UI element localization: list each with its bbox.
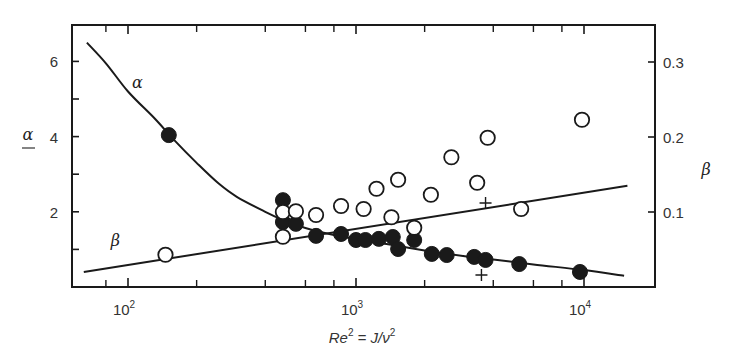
open-circle-marker xyxy=(158,248,172,262)
open-circle-marker xyxy=(514,202,528,216)
tick-labels: 1021031042460.10.20.3 xyxy=(50,53,684,318)
filled-circle-marker xyxy=(309,228,324,243)
y-right-tick-label: 0.1 xyxy=(663,204,684,221)
open-circle-marker xyxy=(391,173,405,187)
x-axis-label: Re2 = J/ν2 xyxy=(329,327,396,346)
open-circle-marker xyxy=(384,210,398,224)
open-circle-marker xyxy=(424,188,438,202)
y-axis-label-left: α xyxy=(23,125,34,144)
y-right-tick-label: 0.3 xyxy=(663,54,684,71)
open-circle-marker xyxy=(444,150,458,164)
y-left-tick-label: 6 xyxy=(50,53,58,70)
x-axis-label-rhs: = J/ν xyxy=(353,329,390,346)
plus-marker xyxy=(475,269,487,281)
beta-curve-label: β xyxy=(110,231,120,250)
open-circle-marker xyxy=(334,199,348,213)
y-left-tick-label: 2 xyxy=(50,204,58,221)
filled-circle-marker xyxy=(512,257,527,272)
x-axis-label-re: Re xyxy=(329,329,348,346)
y-left-tick-label: 4 xyxy=(50,129,58,146)
open-circle-marker xyxy=(480,131,494,145)
open-circle-marker xyxy=(276,230,290,244)
x-tick-label: 104 xyxy=(569,299,592,318)
open-circle-marker xyxy=(470,176,484,190)
open-circle-marker xyxy=(575,113,589,127)
alpha-curve-label: α xyxy=(132,73,143,92)
filled-circle-marker xyxy=(358,233,373,248)
x-axis-label-nu-exponent: 2 xyxy=(390,327,396,338)
filled-circle-marker xyxy=(439,248,454,263)
filled-circle-marker xyxy=(478,252,493,267)
filled-circle-marker xyxy=(391,242,406,257)
y-axis-label-right: β xyxy=(700,160,710,179)
x-tick-label: 103 xyxy=(341,299,364,318)
open-circle-marker xyxy=(369,182,383,196)
x-tick-label: 102 xyxy=(113,299,136,318)
filled-circle-marker xyxy=(161,128,176,143)
open-circle-marker xyxy=(289,204,303,218)
filled-circle-marker xyxy=(334,226,349,241)
open-circle-marker xyxy=(356,202,370,216)
chart: 1021031042460.10.20.3 α β Re2 = J/ν2 αβ xyxy=(0,0,736,363)
open-circle-marker xyxy=(407,221,421,235)
filled-circle-marker xyxy=(572,264,587,279)
y-right-tick-label: 0.2 xyxy=(663,129,684,146)
filled-circle-marker xyxy=(424,246,439,261)
data-markers xyxy=(158,113,589,281)
filled-circle-marker xyxy=(371,231,386,246)
open-circle-marker xyxy=(309,208,323,222)
